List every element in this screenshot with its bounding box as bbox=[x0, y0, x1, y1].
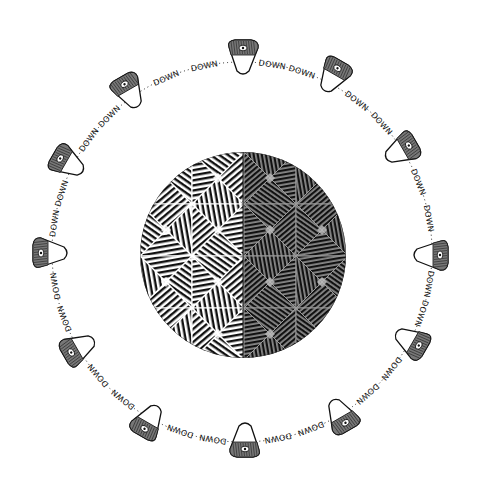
down-label: DOWN bbox=[96, 104, 122, 130]
down-label: DOWN bbox=[379, 355, 403, 382]
pod-node bbox=[57, 326, 101, 369]
down-label: DOWN bbox=[354, 381, 381, 406]
ring-and-sphere-drawing: DOWNDOWNDOWNDOWNDOWNDOWNDOWNDOWNDOWNDOWN… bbox=[0, 0, 477, 488]
down-label: DOWN bbox=[287, 64, 316, 81]
pod-node bbox=[414, 241, 448, 271]
pod-node bbox=[33, 238, 67, 268]
down-label: DOWN bbox=[86, 362, 111, 389]
down-label: DOWN bbox=[77, 126, 101, 154]
down-label: DOWN bbox=[422, 270, 436, 299]
down-label: DOWN bbox=[55, 304, 73, 333]
down-label: DOWN bbox=[343, 89, 370, 113]
pod-node bbox=[229, 40, 259, 74]
pod-node bbox=[379, 129, 423, 172]
down-label: DOWN bbox=[258, 58, 287, 71]
down-label: DOWN bbox=[198, 433, 227, 446]
down-label: DOWN bbox=[109, 387, 136, 411]
down-label: DOWN bbox=[152, 69, 181, 88]
down-label: DOWN bbox=[264, 431, 293, 445]
sphere-dark-half bbox=[88, 100, 400, 412]
illustration-canvas: DOWNDOWNDOWNDOWNDOWNDOWNDOWNDOWNDOWNDOWN… bbox=[0, 0, 477, 488]
down-label: DOWN bbox=[296, 419, 325, 437]
down-label: DOWN bbox=[409, 168, 428, 197]
hatched-sphere bbox=[88, 100, 400, 412]
down-label: DOWN bbox=[48, 209, 61, 238]
down-label: DOWN bbox=[53, 179, 70, 208]
down-label: DOWN bbox=[166, 422, 195, 439]
down-label: DOWN bbox=[190, 59, 219, 73]
down-label: DOWN bbox=[422, 204, 436, 233]
down-label: DOWN bbox=[369, 111, 394, 137]
pod-node bbox=[230, 423, 260, 457]
down-label: DOWN bbox=[49, 271, 63, 300]
down-label: DOWN bbox=[413, 299, 430, 328]
